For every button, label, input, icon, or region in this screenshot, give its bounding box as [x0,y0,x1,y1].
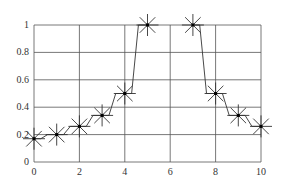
asterisk-marker-icon [205,83,227,105]
y-axis-ticks: 00.20.40.60.81 [17,19,30,167]
y-tick-label: 1 [24,19,29,30]
asterisk-marker-icon [91,104,113,126]
asterisk-marker-icon [114,83,136,105]
asterisk-marker-icon [23,128,45,150]
x-tick-label: 8 [213,166,218,177]
y-tick-label: 0.4 [17,101,30,112]
asterisk-marker-icon [182,14,204,36]
x-axis-ticks: 0246810 [32,166,267,177]
x-tick-label: 6 [168,166,173,177]
y-tick-label: 0.6 [17,74,30,85]
grid-lines [34,25,261,162]
line-chart: 00.20.40.60.81 0246810 [0,0,286,185]
y-tick-label: 0 [24,156,29,167]
asterisk-marker-icon [250,115,272,137]
asterisk-marker-icon [46,124,68,146]
y-tick-label: 0.2 [17,129,30,140]
series-line [34,25,261,139]
x-tick-label: 0 [32,166,37,177]
x-tick-label: 2 [77,166,82,177]
x-tick-label: 4 [122,166,127,177]
asterisk-marker-icon [68,115,90,137]
y-tick-label: 0.8 [17,46,30,57]
asterisk-marker-icon [227,104,249,126]
asterisk-marker-icon [137,14,159,36]
data-series [23,14,272,150]
x-tick-label: 10 [256,166,266,177]
